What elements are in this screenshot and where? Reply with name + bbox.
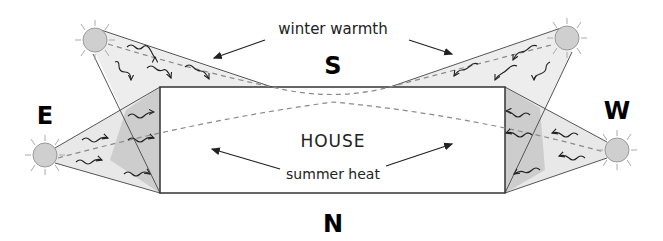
compass-south: S	[324, 52, 341, 80]
winter-arrow-left	[214, 40, 265, 58]
sun-icon	[25, 135, 65, 175]
compass-north: N	[323, 210, 343, 238]
sun-icon	[597, 130, 637, 170]
winter-arrow-right	[409, 40, 452, 54]
winter-warmth-label: winter warmth	[278, 20, 387, 38]
solar-diagram: winter warmth summer heat HOUSE S N E W	[0, 0, 663, 241]
house-label: HOUSE	[300, 131, 365, 151]
compass-east: E	[37, 102, 53, 130]
summer-heat-label: summer heat	[286, 166, 380, 182]
compass-west: W	[604, 97, 630, 125]
